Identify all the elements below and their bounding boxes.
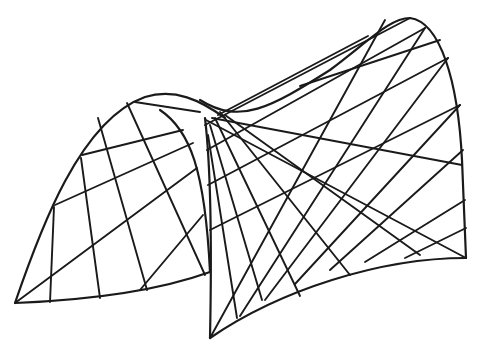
surface-edges [15, 18, 466, 338]
ruling-line [205, 18, 410, 125]
ruling-line [50, 207, 54, 302]
ruling-line [265, 58, 448, 300]
saddle-surface-drawing [0, 0, 484, 355]
ruling-line [215, 118, 300, 296]
ruling-line [218, 36, 368, 115]
ruling-line [135, 102, 200, 112]
ruling-line [210, 125, 262, 300]
ruling-line [208, 135, 237, 318]
ruling-line [81, 158, 100, 298]
ruling-line [295, 105, 460, 284]
ruling-line [330, 150, 463, 270]
left-arch-bottom [15, 272, 210, 303]
ruling-line [55, 143, 193, 205]
ruling-line [127, 103, 205, 275]
ruling-line [225, 115, 420, 255]
surface-svg [0, 0, 484, 355]
ruling-line [212, 118, 462, 165]
ruling-line [98, 118, 147, 290]
ruling-line [220, 112, 350, 275]
ruling-line [140, 215, 203, 290]
ruling-line [15, 168, 197, 303]
ruling-lines [15, 18, 466, 338]
